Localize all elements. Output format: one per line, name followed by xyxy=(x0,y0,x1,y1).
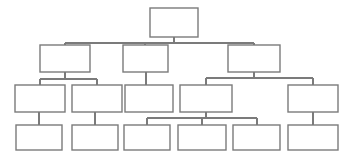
org-chart-diagram xyxy=(0,0,349,162)
node-box[interactable] xyxy=(16,125,62,150)
org-node-n2_2[interactable] xyxy=(123,45,168,72)
node-box[interactable] xyxy=(288,125,338,150)
org-node-n2_3[interactable] xyxy=(228,45,280,72)
org-node-n4_3[interactable] xyxy=(124,125,170,150)
node-box[interactable] xyxy=(72,125,118,150)
org-node-n3_1[interactable] xyxy=(15,85,65,112)
node-box[interactable] xyxy=(125,85,173,112)
org-node-n3_5[interactable] xyxy=(288,85,338,112)
org-node-n4_1[interactable] xyxy=(16,125,62,150)
org-node-n3_2[interactable] xyxy=(72,85,122,112)
org-node-n2_1[interactable] xyxy=(40,45,90,72)
node-box[interactable] xyxy=(72,85,122,112)
node-box[interactable] xyxy=(15,85,65,112)
org-node-n4_4[interactable] xyxy=(178,125,226,150)
org-node-n4_2[interactable] xyxy=(72,125,118,150)
org-node-n1[interactable] xyxy=(150,8,198,37)
org-chart-svg xyxy=(0,0,349,162)
org-node-n3_3[interactable] xyxy=(125,85,173,112)
node-box[interactable] xyxy=(180,85,232,112)
node-box[interactable] xyxy=(288,85,338,112)
node-box[interactable] xyxy=(123,45,168,72)
org-node-n4_5[interactable] xyxy=(233,125,280,150)
org-node-n3_4[interactable] xyxy=(180,85,232,112)
node-box[interactable] xyxy=(150,8,198,37)
node-box[interactable] xyxy=(233,125,280,150)
node-box[interactable] xyxy=(178,125,226,150)
node-box[interactable] xyxy=(40,45,90,72)
node-box[interactable] xyxy=(124,125,170,150)
org-node-n4_6[interactable] xyxy=(288,125,338,150)
node-box[interactable] xyxy=(228,45,280,72)
